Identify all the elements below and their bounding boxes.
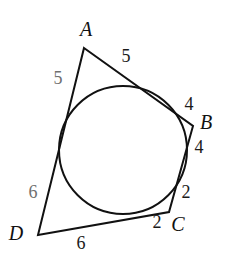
segment-length-bc-lower: 4: [195, 138, 204, 156]
segment-length-bc-upper: 4: [185, 95, 194, 113]
inscribed-circle: [59, 86, 187, 214]
vertex-label-c: C: [171, 214, 184, 234]
figure-canvas: [0, 0, 227, 270]
segment-length-dc-right: 2: [153, 213, 162, 231]
segment-length-ab-upper: 5: [122, 47, 131, 65]
segment-length-ad-lower: 6: [29, 183, 38, 201]
geometry-figure: A B C D 5 5 4 4 2 2 6 6: [0, 0, 227, 270]
vertex-label-d: D: [9, 223, 23, 243]
vertex-label-b: B: [200, 112, 212, 132]
segment-length-dc-lower: 6: [77, 234, 86, 252]
segment-length-ad-upper: 5: [54, 69, 63, 87]
segment-length-cb-short: 2: [182, 183, 191, 201]
vertex-label-a: A: [80, 19, 92, 39]
